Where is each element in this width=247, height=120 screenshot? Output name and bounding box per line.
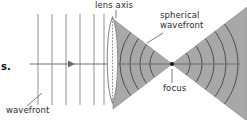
plane-wavefront-lines <box>38 14 104 105</box>
axis-direction-arrow-icon <box>68 61 75 68</box>
margin-text-fragment: s. <box>1 62 11 72</box>
spherical-wavefront-leader-line <box>147 33 163 43</box>
label-wavefront: wavefront <box>6 106 50 116</box>
focus-point-dot <box>170 62 174 66</box>
label-focus: focus <box>163 84 186 94</box>
label-spherical-wavefront-line2: wavefront <box>160 20 204 30</box>
optics-diagram-figure: lens axis spherical wavefront focus wave… <box>0 0 247 120</box>
diagram-canvas <box>0 0 247 120</box>
label-lens-axis: lens axis <box>95 1 133 11</box>
label-spherical-wavefront-line1: spherical <box>160 10 204 20</box>
label-spherical-wavefront: spherical wavefront <box>160 10 204 30</box>
